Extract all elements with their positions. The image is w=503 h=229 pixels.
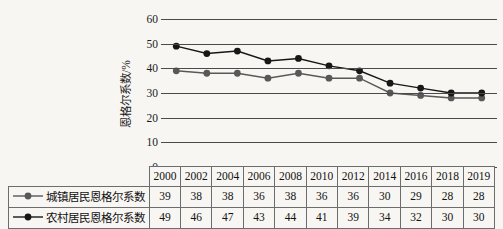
table-cell: 47 xyxy=(212,207,243,228)
column-header-2006: 2006 xyxy=(243,167,274,187)
table-cell: 49 xyxy=(149,207,180,228)
table-cell: 34 xyxy=(369,207,400,228)
table-row: 城镇居民恩格尔系数3938383638363630292828 xyxy=(9,187,495,208)
series-label: 城镇居民恩格尔系数 xyxy=(46,191,145,203)
table-cell: 28 xyxy=(432,187,463,208)
table-cell: 44 xyxy=(275,207,306,228)
legend-line-marker-icon xyxy=(13,188,43,207)
series-legend-rural: 农村居民恩格尔系数 xyxy=(9,207,150,228)
data-point xyxy=(387,80,394,87)
y-tick-50: 50 xyxy=(134,38,158,49)
data-table: 2000200220042006200820102012201420162018… xyxy=(8,166,495,229)
y-tick-60: 60 xyxy=(134,14,158,25)
data-point xyxy=(234,48,241,55)
series-legend-urban: 城镇居民恩格尔系数 xyxy=(9,187,150,208)
y-tick-10: 10 xyxy=(134,137,158,148)
table-cell: 29 xyxy=(400,187,431,208)
y-axis-tick-labels: 6050403020100 xyxy=(134,14,158,167)
data-point xyxy=(326,75,333,82)
column-header-2010: 2010 xyxy=(306,167,337,187)
table-cell: 38 xyxy=(275,187,306,208)
column-header-2012: 2012 xyxy=(338,167,369,187)
data-point xyxy=(203,70,210,77)
table-cell: 36 xyxy=(243,187,274,208)
column-header-2004: 2004 xyxy=(212,167,243,187)
column-header-2014: 2014 xyxy=(369,167,400,187)
table-cell: 36 xyxy=(306,187,337,208)
column-header-2002: 2002 xyxy=(181,167,212,187)
table-row: 农村居民恩格尔系数4946474344413934323030 xyxy=(9,207,495,228)
gridline-40 xyxy=(161,68,497,69)
gridline-60 xyxy=(161,19,497,20)
table-cell: 38 xyxy=(181,187,212,208)
y-tick-20: 20 xyxy=(134,112,158,123)
table-cell: 30 xyxy=(432,207,463,228)
plot-area xyxy=(161,19,497,167)
table-cell: 46 xyxy=(181,207,212,228)
table-cell: 39 xyxy=(338,207,369,228)
data-point xyxy=(295,55,302,62)
gridline-30 xyxy=(161,93,497,94)
y-axis-title: 恩格尔系数/% xyxy=(118,42,134,146)
table-corner-cell xyxy=(9,167,150,187)
data-point xyxy=(265,75,272,82)
series-label: 农村居民恩格尔系数 xyxy=(46,212,145,224)
column-header-2019: 2019 xyxy=(463,167,494,187)
gridline-50 xyxy=(161,44,497,45)
y-tick-40: 40 xyxy=(134,63,158,74)
data-point xyxy=(356,75,363,82)
table-cell: 32 xyxy=(400,207,431,228)
column-header-2008: 2008 xyxy=(275,167,306,187)
column-header-2016: 2016 xyxy=(400,167,431,187)
column-header-2018: 2018 xyxy=(432,167,463,187)
column-header-2000: 2000 xyxy=(149,167,180,187)
table-cell: 38 xyxy=(212,187,243,208)
table-cell: 39 xyxy=(149,187,180,208)
data-point xyxy=(203,50,210,57)
gridline-20 xyxy=(161,118,497,119)
data-point xyxy=(234,70,241,77)
table-header-row: 2000200220042006200820102012201420162018… xyxy=(9,167,495,187)
y-tick-30: 30 xyxy=(134,88,158,99)
gridline-10 xyxy=(161,142,497,143)
data-point xyxy=(417,85,424,92)
table-cell: 30 xyxy=(463,207,494,228)
data-point xyxy=(265,58,272,65)
series-line-rural xyxy=(176,46,481,93)
table-cell: 36 xyxy=(338,187,369,208)
chart-page: 恩格尔系数/% 6050403020100 200020022004200620… xyxy=(0,0,503,229)
table-cell: 43 xyxy=(243,207,274,228)
table-cell: 41 xyxy=(306,207,337,228)
table-cell: 30 xyxy=(369,187,400,208)
data-point xyxy=(295,70,302,77)
legend-line-marker-icon xyxy=(13,209,43,228)
table-cell: 28 xyxy=(463,187,494,208)
